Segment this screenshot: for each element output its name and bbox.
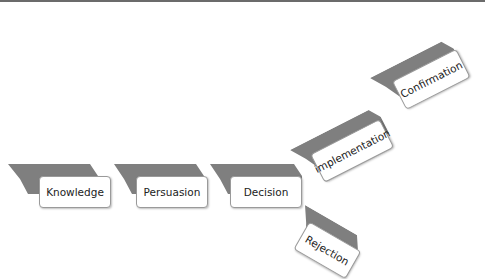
step-box-knowledge: Knowledge (39, 176, 111, 208)
step-box-persuasion: Persuasion (136, 176, 208, 208)
step-label: Decision (244, 186, 289, 198)
step-label: Knowledge (46, 186, 104, 198)
step-label: Persuasion (144, 186, 201, 198)
top-border-line (0, 0, 485, 2)
step-box-decision: Decision (230, 176, 302, 208)
